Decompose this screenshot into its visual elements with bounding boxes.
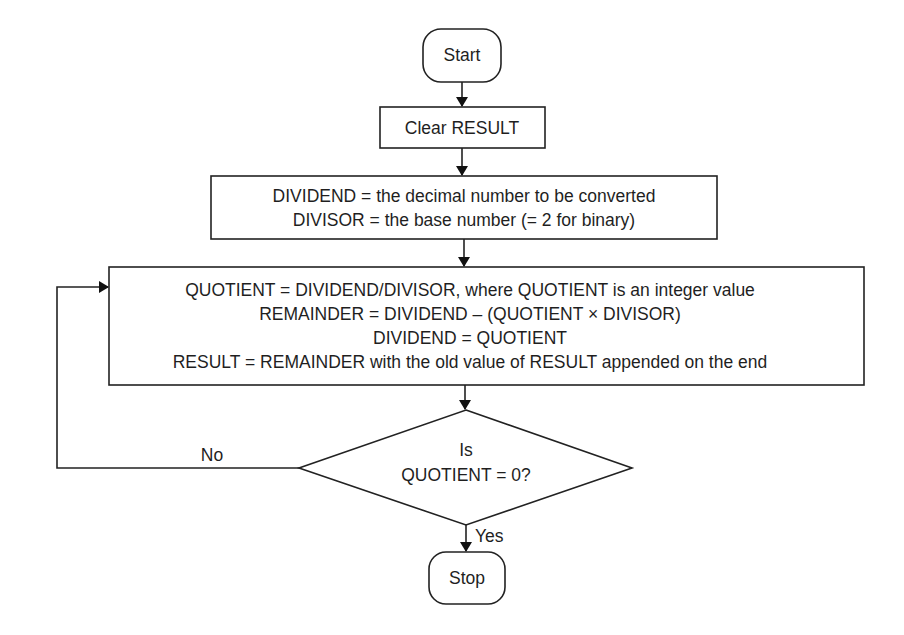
init-line-dividend: DIVIDEND = the decimal number to be conv…	[273, 186, 656, 206]
decision-line-quotient: QUOTIENT = 0?	[401, 465, 531, 485]
loop-body-node: QUOTIENT = DIVIDEND/DIVISOR, where QUOTI…	[109, 267, 864, 385]
loop-line-remainder: REMAINDER = DIVIDEND – (QUOTIENT × DIVIS…	[259, 304, 681, 324]
clear-result-node: Clear RESULT	[380, 107, 545, 148]
init-line-divisor: DIVISOR = the base number (= 2 for binar…	[293, 210, 635, 230]
loop-line-quotient: QUOTIENT = DIVIDEND/DIVISOR, where QUOTI…	[185, 280, 755, 300]
loop-line-result: RESULT = REMAINDER with the old value of…	[173, 352, 768, 372]
decision-node: Is QUOTIENT = 0?	[299, 410, 632, 525]
yes-label: Yes	[475, 526, 504, 546]
stop-label: Stop	[449, 568, 485, 588]
flowchart-canvas: Start Clear RESULT DIVIDEND = the decima…	[0, 0, 904, 635]
no-label: No	[201, 445, 223, 465]
start-node: Start	[423, 29, 501, 82]
clear-result-label: Clear RESULT	[405, 118, 520, 138]
init-node: DIVIDEND = the decimal number to be conv…	[211, 176, 717, 239]
decision-line-is: Is	[459, 440, 473, 460]
stop-node: Stop	[429, 552, 505, 604]
start-label: Start	[444, 45, 481, 65]
loop-line-dividend: DIVIDEND = QUOTIENT	[373, 328, 567, 348]
